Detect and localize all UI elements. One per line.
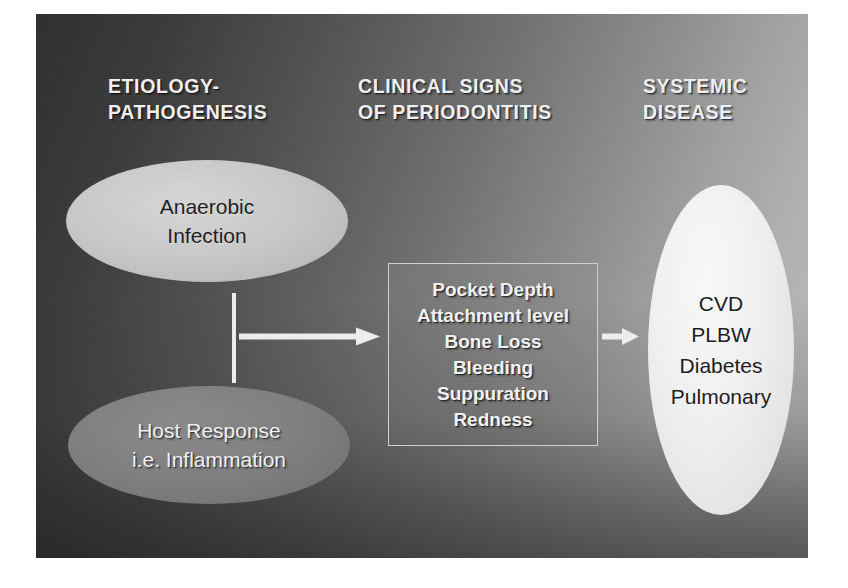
node-anaerobic-infection: Anaerobic Infection [66, 160, 348, 282]
heading-clinical-signs: CLINICAL SIGNS OF PERIODONTITIS [358, 73, 552, 125]
node-systemic-disease-label: CVD PLBW Diabetes Pulmonary [671, 288, 771, 412]
diagram-slide: ETIOLOGY- PATHOGENESIS CLINICAL SIGNS OF… [36, 14, 808, 558]
connector-vertical-bar [232, 293, 236, 383]
node-clinical-signs-label: Pocket Depth Attachment level Bone Loss … [417, 277, 569, 433]
arrow-to-systemic-disease-icon [602, 326, 640, 348]
node-host-response-label: Host Response i.e. Inflammation [132, 416, 286, 474]
node-systemic-disease: CVD PLBW Diabetes Pulmonary [648, 185, 794, 515]
node-anaerobic-infection-label: Anaerobic Infection [160, 192, 255, 250]
arrow-to-clinical-signs-icon [239, 325, 381, 349]
node-host-response: Host Response i.e. Inflammation [68, 386, 350, 504]
node-clinical-signs-box: Pocket Depth Attachment level Bone Loss … [388, 263, 598, 446]
heading-etiology-pathogenesis: ETIOLOGY- PATHOGENESIS [108, 73, 267, 125]
heading-systemic-disease: SYSTEMIC DISEASE [643, 73, 747, 125]
page-canvas: ETIOLOGY- PATHOGENESIS CLINICAL SIGNS OF… [0, 0, 848, 588]
